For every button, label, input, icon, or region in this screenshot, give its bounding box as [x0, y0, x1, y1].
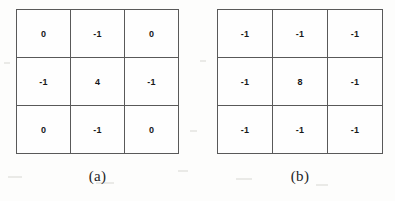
matrix-b-cell-1-1: 8: [273, 58, 328, 106]
matrix-a-cell-1-2: -1: [125, 58, 179, 106]
matrix-a-cell-0-2: 0: [125, 10, 179, 58]
matrix-a-cell-0-0: 0: [17, 10, 71, 58]
matrix-b-cell-1-0: -1: [218, 58, 273, 106]
matrix-b-cell-0-1: -1: [273, 10, 328, 58]
matrix-b-cell-2-0: -1: [218, 106, 273, 154]
matrix-panel-a: 0 -1 0 -1 4 -1 0 -1 0 (a): [16, 0, 179, 185]
table-row: -1 8 -1: [218, 58, 383, 106]
matrix-a-cell-2-2: 0: [125, 106, 179, 154]
matrix-b-cell-0-0: -1: [218, 10, 273, 58]
matrix-b-cell-1-2: -1: [328, 58, 383, 106]
matrix-a-cell-2-1: -1: [71, 106, 125, 154]
table-row: -1 -1 -1: [218, 10, 383, 58]
table-row: -1 4 -1: [17, 58, 179, 106]
table-row: -1 -1 -1: [218, 106, 383, 154]
table-row: 0 -1 0: [17, 10, 179, 58]
matrix-a-cell-2-0: 0: [17, 106, 71, 154]
matrix-a-cell-1-1: 4: [71, 58, 125, 106]
matrix-a-cell-0-1: -1: [71, 10, 125, 58]
caption-b: (b): [217, 168, 383, 185]
table-row: 0 -1 0: [17, 106, 179, 154]
matrix-panel-b: -1 -1 -1 -1 8 -1 -1 -1 -1 (b): [217, 0, 383, 185]
caption-a: (a): [16, 168, 179, 185]
matrix-b-cell-0-2: -1: [328, 10, 383, 58]
matrix-b: -1 -1 -1 -1 8 -1 -1 -1 -1: [217, 9, 383, 154]
matrix-a-cell-1-0: -1: [17, 58, 71, 106]
matrix-b-cell-2-1: -1: [273, 106, 328, 154]
matrix-b-cell-2-2: -1: [328, 106, 383, 154]
matrix-a: 0 -1 0 -1 4 -1 0 -1 0: [16, 9, 179, 154]
